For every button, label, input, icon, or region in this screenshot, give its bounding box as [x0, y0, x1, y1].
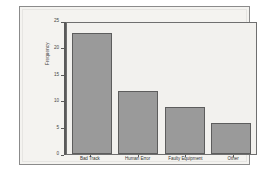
y-tick-label: 25	[54, 19, 59, 24]
bar-slot	[115, 23, 161, 154]
bar	[118, 91, 158, 154]
x-axis-category-label: Human Error	[114, 157, 162, 167]
y-tick-label: 0	[57, 152, 59, 157]
y-tick-label: 20	[54, 46, 59, 51]
bar-series	[67, 23, 256, 154]
bar-slot	[208, 23, 254, 154]
plot-area	[67, 23, 256, 154]
bar	[72, 33, 112, 154]
bar	[165, 107, 205, 154]
y-tick-label: 15	[54, 73, 59, 78]
x-axis-labels: Bad TrackHuman ErrorFaulty EquipmentOthe…	[66, 157, 257, 167]
y-axis-ticks: 0510152025	[20, 22, 64, 155]
y-tick-label: 5	[57, 126, 59, 131]
chart-panel: Frequency 0510152025 Bad TrackHuman Erro…	[19, 6, 250, 165]
bar	[211, 123, 251, 154]
x-axis-category-label: Other	[209, 157, 257, 167]
plot-frame	[66, 22, 257, 155]
y-tick-label: 10	[54, 99, 59, 104]
bar-slot	[69, 23, 115, 154]
x-axis-category-label: Faulty Equipment	[162, 157, 210, 167]
x-axis-category-label: Bad Track	[66, 157, 114, 167]
bar-slot	[162, 23, 208, 154]
bar-chart-figure: Frequency 0510152025 Bad TrackHuman Erro…	[0, 0, 270, 172]
